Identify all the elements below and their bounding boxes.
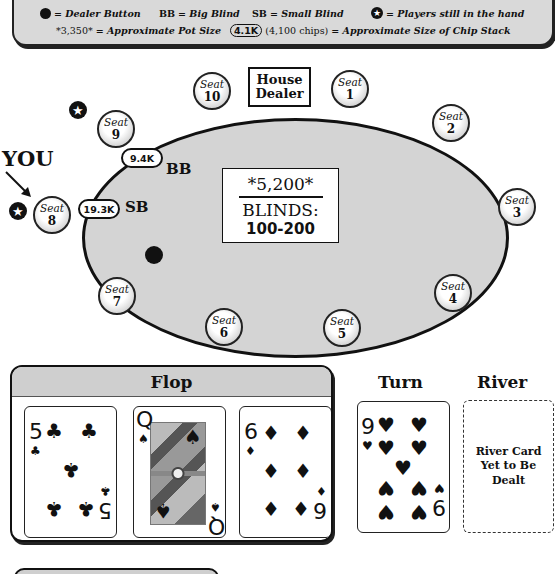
spades-icon: ♠ — [138, 433, 149, 445]
card-rank: 5 — [98, 499, 112, 521]
clubs-icon: ♣ — [30, 445, 41, 457]
pot-amount: *5,200* — [223, 174, 338, 194]
seat-label: Seat — [200, 79, 224, 90]
star-icon: ★ — [371, 7, 383, 19]
diamonds-icon: ♦ — [294, 423, 312, 443]
hearts-icon: ♥ — [410, 478, 428, 498]
diamonds-icon: ♦ — [245, 445, 256, 457]
diamonds-icon: ♦ — [262, 423, 280, 443]
seat-label: Seat — [439, 111, 463, 122]
flop-card-1[interactable]: 5 ♣ ♣ ♣ ♣ ♣ ♣ ♣ 5 — [24, 406, 117, 538]
seat-number: 6 — [220, 327, 228, 339]
seat-6[interactable]: Seat6 — [205, 308, 243, 346]
diamonds-icon: ♦ — [292, 499, 310, 519]
legend-panel: = Dealer Button BB = Big Blind SB = Smal… — [12, 0, 554, 46]
seat-5[interactable]: Seat5 — [323, 309, 361, 347]
legend-chip-stack: 4.1K (4,100 chips) = Approximate Size of… — [230, 24, 511, 37]
hearts-icon: ♥ — [434, 482, 445, 494]
clubs-icon: ♣ — [62, 460, 80, 480]
legend-pot-size: *3,350* = Approximate Pot Size — [56, 25, 221, 36]
legend-players-in-hand: ★ = Players still in the hand — [371, 7, 524, 19]
hearts-icon: ♥ — [377, 415, 395, 435]
house-dealer-line1: House — [257, 73, 303, 87]
clubs-icon: ♣ — [77, 499, 95, 519]
seat-label: Seat — [40, 203, 64, 214]
flop-card-3[interactable]: 6 ♦ ♦ ♦ ♦ ♦ ♦ ♦ ♦ 6 — [239, 406, 332, 538]
chip-stack-seat-9: 9.4K — [121, 148, 163, 168]
hearts-icon: ♥ — [410, 502, 428, 522]
seat-3[interactable]: Seat3 — [498, 188, 536, 226]
spades-icon: ♠ — [210, 501, 221, 513]
hearts-icon: ♥ — [362, 440, 373, 452]
seat-number: 7 — [113, 296, 121, 308]
seat-number: 9 — [112, 129, 120, 141]
seat-10[interactable]: Seat10 — [193, 72, 231, 110]
chip-stack-seat-8: 19.3K — [78, 199, 120, 219]
blinds-value: 100-200 — [223, 220, 338, 238]
chip-example: 4.1K — [230, 24, 262, 37]
diamonds-icon: ♦ — [262, 461, 280, 481]
spades-icon: ♠ — [154, 501, 172, 521]
turn-card[interactable]: 9 ♥ ♥ ♥ ♥ ♥ ♥ ♥ ♥ ♥ ♥ ♥ 9 — [357, 401, 450, 533]
card-rank: Q — [136, 409, 153, 431]
seat-number: 4 — [449, 293, 457, 305]
flop-title: Flop — [12, 367, 331, 397]
seat-label: Seat — [105, 284, 129, 295]
seat-label: Seat — [104, 117, 128, 128]
seat-number: 10 — [204, 91, 221, 103]
seat-7[interactable]: Seat7 — [98, 277, 136, 315]
clubs-icon: ♣ — [45, 499, 63, 519]
dealer-button-icon — [145, 246, 163, 264]
hearts-icon: ♥ — [394, 458, 412, 478]
seat-number: 8 — [48, 215, 56, 227]
legend-text: = Big Blind — [178, 8, 240, 19]
seat-number: 5 — [338, 328, 346, 340]
hearts-icon: ♥ — [377, 478, 395, 498]
star-icon: ★ — [69, 101, 87, 119]
house-dealer-line2: Dealer — [255, 87, 303, 101]
flop-card-2[interactable]: Q ♠ ♠ ♠ ♠ Q — [133, 406, 226, 538]
seat-label: Seat — [212, 315, 236, 326]
seat-9[interactable]: Seat9 — [97, 110, 135, 148]
chip-detail: (4,100 chips) — [265, 25, 328, 36]
seat-4[interactable]: Seat4 — [434, 274, 472, 312]
legend-text: = Dealer Button — [54, 8, 141, 19]
card-rank: 9 — [432, 496, 446, 518]
pot-example: *3,350* — [56, 25, 93, 36]
legend-big-blind: BB = Big Blind — [159, 8, 240, 19]
small-blind-tag: SB — [125, 198, 149, 216]
card-rank: 6 — [244, 421, 258, 443]
seat-1[interactable]: Seat1 — [331, 70, 369, 108]
flop-panel: Flop 5 ♣ ♣ ♣ ♣ ♣ ♣ ♣ 5 Q ♠ ♠ ♠ ♠ Q 6 ♦ ♦… — [10, 365, 333, 542]
spades-icon: ♠ — [184, 427, 202, 447]
legend-dealer-button: = Dealer Button — [40, 8, 141, 19]
seat-8[interactable]: Seat8 — [33, 196, 71, 234]
legend-abbr: BB — [159, 8, 175, 19]
diamonds-icon: ♦ — [316, 485, 327, 497]
legend-text: = Approximate Size of Chip Stack — [331, 25, 510, 36]
hearts-icon: ♥ — [377, 438, 395, 458]
house-dealer-box: House Dealer — [248, 67, 311, 107]
diamonds-icon: ♦ — [262, 499, 280, 519]
seat-label: Seat — [505, 195, 529, 206]
seat-2[interactable]: Seat2 — [432, 104, 470, 142]
river-placeholder-text: River Card Yet to Be Dealt — [474, 445, 544, 488]
hearts-icon: ♥ — [410, 438, 428, 458]
seat-number: 1 — [346, 89, 354, 101]
river-card-placeholder: River Card Yet to Be Dealt — [463, 400, 554, 533]
star-icon: ★ — [9, 202, 27, 220]
hearts-icon: ♥ — [377, 502, 395, 522]
legend-text: = Small Blind — [270, 8, 344, 19]
clubs-icon: ♣ — [100, 485, 111, 497]
seat-label: Seat — [330, 316, 354, 327]
turn-title: Turn — [378, 372, 423, 392]
arrow-icon — [4, 170, 34, 200]
seat-number: 3 — [513, 207, 521, 219]
seat-number: 2 — [447, 123, 455, 135]
legend-text: = Approximate Pot Size — [96, 25, 221, 36]
legend-abbr: SB — [252, 8, 267, 19]
clubs-icon: ♣ — [80, 421, 98, 441]
hearts-icon: ♥ — [410, 415, 428, 435]
seat-label: Seat — [338, 77, 362, 88]
pot-box: *5,200* BLINDS: 100-200 — [222, 168, 339, 243]
